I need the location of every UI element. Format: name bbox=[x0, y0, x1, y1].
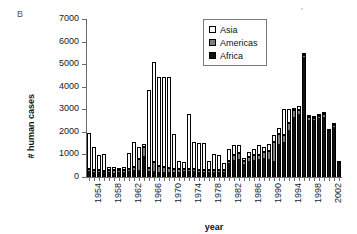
bar-1987 bbox=[252, 149, 256, 177]
y-axis-tick-label: 1000 bbox=[59, 148, 79, 158]
bar-segment-africa bbox=[297, 114, 301, 177]
x-axis-tick bbox=[129, 177, 130, 181]
bar-segment-asia bbox=[297, 106, 301, 110]
bar-1971 bbox=[172, 134, 176, 177]
bar-segment-asia bbox=[252, 149, 256, 156]
bar-segment-africa bbox=[312, 120, 316, 177]
y-axis-tick bbox=[82, 109, 86, 110]
bar-segment-africa bbox=[302, 57, 306, 177]
bar-segment-americas bbox=[207, 170, 211, 172]
x-axis-tick bbox=[179, 177, 180, 181]
bar-1991 bbox=[272, 135, 276, 177]
x-axis-label-host: year bbox=[86, 216, 342, 234]
bar-segment-americas bbox=[257, 155, 261, 160]
bar-segment-americas bbox=[327, 131, 331, 133]
bar-segment-americas bbox=[117, 170, 121, 172]
legend-item-asia: Asia bbox=[209, 23, 258, 36]
y-axis-tick-label: 6000 bbox=[59, 36, 79, 46]
bar-2000 bbox=[317, 116, 321, 177]
x-axis-tick-label: 1982 bbox=[233, 183, 243, 203]
bar-segment-americas bbox=[277, 134, 281, 144]
bar-segment-americas bbox=[167, 168, 171, 172]
bar-2004 bbox=[337, 163, 341, 177]
bar-segment-americas bbox=[172, 169, 176, 172]
bar-1990 bbox=[267, 144, 271, 177]
bar-segment-africa bbox=[137, 170, 141, 177]
legend-label-asia: Asia bbox=[220, 25, 238, 35]
bar-2003 bbox=[332, 125, 336, 177]
bar-1992 bbox=[277, 128, 281, 177]
bar-segment-africa bbox=[242, 164, 246, 177]
bar-segment-africa bbox=[247, 161, 251, 177]
x-axis-tick bbox=[339, 177, 340, 181]
bar-segment-americas bbox=[282, 135, 286, 142]
bar-segment-americas bbox=[107, 170, 111, 172]
y-axis-tick-label: 4000 bbox=[59, 81, 79, 91]
bar-segment-asia bbox=[122, 167, 126, 170]
bar-1975 bbox=[192, 142, 196, 177]
bar-segment-asia bbox=[177, 161, 181, 169]
bar-segment-americas bbox=[182, 169, 186, 171]
bar-segment-africa bbox=[257, 159, 261, 177]
bar-segment-americas bbox=[202, 170, 206, 172]
bar-segment-asia bbox=[242, 158, 246, 162]
bar-segment-asia bbox=[92, 147, 96, 170]
bar-1960 bbox=[117, 168, 121, 177]
bar-segment-africa bbox=[252, 160, 256, 177]
x-axis-tick bbox=[234, 177, 235, 181]
bar-1993 bbox=[282, 109, 286, 177]
x-axis-tick-label: 1998 bbox=[313, 183, 323, 203]
y-axis-tick bbox=[82, 132, 86, 133]
bar-1974 bbox=[187, 114, 191, 177]
africa-swatch-icon bbox=[209, 52, 216, 59]
bar-1989 bbox=[262, 147, 266, 177]
bar-1954 bbox=[87, 133, 91, 177]
bar-segment-americas bbox=[312, 118, 316, 120]
bar-segment-americas bbox=[272, 142, 276, 162]
x-axis-tick-label: 1986 bbox=[253, 183, 263, 203]
bar-1973 bbox=[182, 162, 186, 177]
bar-1958 bbox=[107, 167, 111, 177]
bar-segment-asia bbox=[97, 155, 101, 170]
x-axis-tick bbox=[114, 177, 115, 181]
bar-segment-americas bbox=[247, 157, 251, 161]
bar-1963 bbox=[132, 142, 136, 177]
bar-segment-asia bbox=[287, 109, 291, 123]
bar-segment-americas bbox=[137, 159, 141, 169]
legend-label-africa: Africa bbox=[220, 51, 243, 61]
bar-1986 bbox=[247, 152, 251, 177]
bar-1984 bbox=[237, 145, 241, 177]
bar-segment-asia bbox=[207, 161, 211, 170]
x-axis-tick bbox=[99, 177, 100, 181]
bar-segment-africa bbox=[317, 118, 321, 177]
x-axis-tick bbox=[304, 177, 305, 181]
bar-1997 bbox=[302, 53, 306, 177]
bar-segment-americas bbox=[97, 170, 101, 172]
bar-segment-africa bbox=[292, 117, 296, 177]
bar-segment-americas bbox=[297, 110, 301, 114]
x-axis-tick bbox=[214, 177, 215, 181]
bar-segment-americas bbox=[262, 152, 266, 159]
bar-segment-asia bbox=[182, 162, 186, 169]
bar-segment-americas bbox=[177, 169, 181, 171]
bar-segment-asia bbox=[267, 144, 271, 151]
bar-segment-africa bbox=[272, 161, 276, 177]
x-axis-tick bbox=[319, 177, 320, 181]
bar-1994 bbox=[287, 109, 291, 177]
bar-segment-asia bbox=[142, 144, 146, 146]
bar-segment-americas bbox=[287, 123, 291, 129]
x-axis-tick bbox=[199, 177, 200, 181]
x-axis-tick bbox=[334, 177, 335, 181]
bar-segment-asia bbox=[102, 154, 106, 170]
bar-1988 bbox=[257, 145, 261, 178]
bar-segment-americas bbox=[127, 169, 131, 171]
y-axis-tick bbox=[82, 42, 86, 43]
bar-segment-africa bbox=[142, 156, 146, 177]
x-axis-tick-label: 1970 bbox=[173, 183, 183, 203]
bar-1977 bbox=[202, 143, 206, 177]
bar-1980 bbox=[217, 155, 221, 177]
bar-1956 bbox=[97, 155, 101, 177]
x-axis-tick-label: 1962 bbox=[133, 183, 143, 203]
x-axis-tick bbox=[144, 177, 145, 181]
x-axis-tick bbox=[279, 177, 280, 181]
